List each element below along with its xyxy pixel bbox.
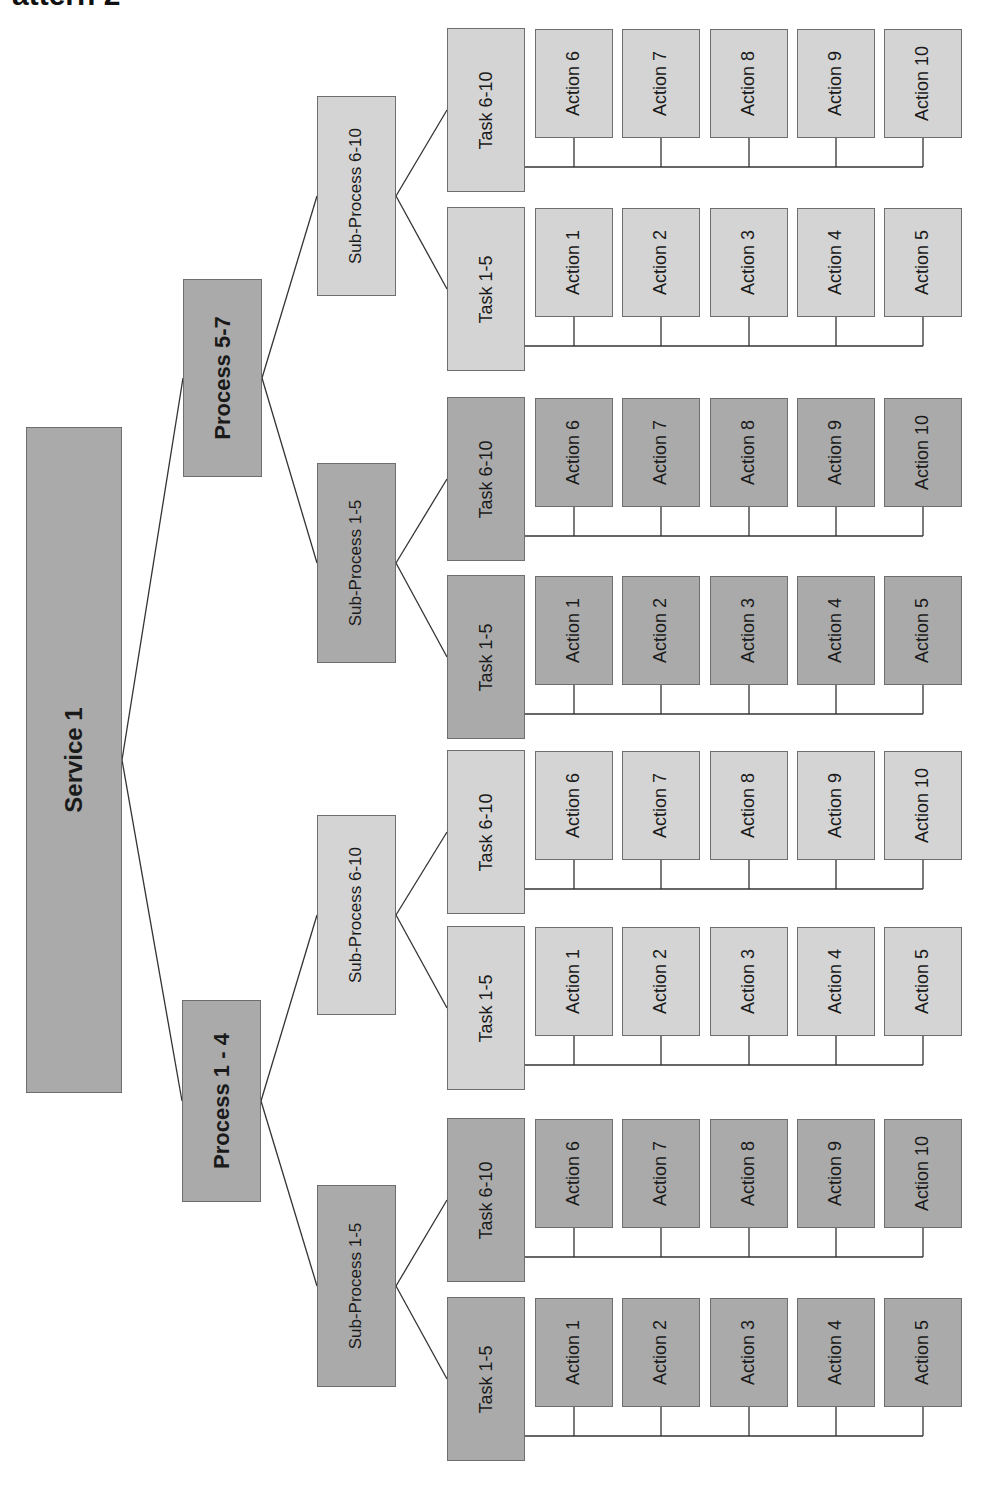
action-box: Action 7 [622,29,700,138]
action-box-label: Action 1 [563,1320,584,1385]
action-box: Action 10 [884,29,962,138]
action-box: Action 1 [535,927,613,1036]
sub-process-box: Sub-Process 1-5 [317,1185,396,1387]
action-box-label: Action 9 [825,1141,846,1206]
action-box-label: Action 3 [738,230,759,295]
action-box-label: Action 5 [912,598,933,663]
action-box-label: Action 7 [650,51,671,116]
task-box-label: Task 6-10 [476,71,497,149]
action-box-label: Action 3 [738,598,759,663]
action-box-label: Action 6 [563,773,584,838]
action-box: Action 10 [884,1119,962,1228]
action-box: Action 4 [797,1298,875,1407]
action-box: Action 8 [710,1119,788,1228]
action-box-label: Action 10 [913,46,934,121]
task-box-label: Task 1-5 [476,1345,497,1413]
task-box-label: Task 6-10 [476,440,497,518]
action-box: Action 9 [797,398,875,507]
action-box-label: Action 7 [650,773,671,838]
task-box-label: Task 1-5 [476,623,497,691]
action-box-label: Action 9 [825,51,846,116]
action-box-label: Action 2 [650,598,671,663]
action-box-label: Action 1 [563,230,584,295]
action-box-label: Action 4 [825,949,846,1014]
process-box: Process 5-7 [183,279,262,477]
action-box: Action 2 [622,1298,700,1407]
task-box-label: Task 6-10 [476,1161,497,1239]
action-box-label: Action 4 [825,230,846,295]
sub-process-box: Sub-Process 6-10 [317,96,396,296]
task-box-label: Task 6-10 [476,793,497,871]
action-box: Action 5 [884,208,962,317]
action-box: Action 6 [535,751,613,860]
action-box: Action 5 [884,1298,962,1407]
action-box: Action 4 [797,208,875,317]
action-box: Action 3 [710,927,788,1036]
action-box: Action 1 [535,1298,613,1407]
action-box-label: Action 6 [563,51,584,116]
action-box-label: Action 6 [563,420,584,485]
action-box: Action 9 [797,751,875,860]
sub-process-box-label: Sub-Process 1-5 [347,500,367,627]
process-box: Process 1 - 4 [182,1000,261,1202]
action-box-label: Action 3 [738,1320,759,1385]
action-box: Action 3 [710,1298,788,1407]
page-title: Pattern 2 [0,0,120,12]
task-box: Task 1-5 [447,207,525,371]
sub-process-box: Sub-Process 1-5 [317,463,396,663]
action-box-label: Action 4 [825,598,846,663]
sub-process-box: Sub-Process 6-10 [317,815,396,1015]
action-box-label: Action 8 [738,773,759,838]
action-box: Action 8 [710,398,788,507]
action-box: Action 7 [622,1119,700,1228]
action-box: Action 6 [535,1119,613,1228]
action-box: Action 9 [797,1119,875,1228]
action-box: Action 2 [622,208,700,317]
task-box: Task 1-5 [447,575,525,739]
action-box: Action 10 [884,398,962,507]
action-box-label: Action 8 [738,420,759,485]
action-box-label: Action 5 [912,1320,933,1385]
action-box-label: Action 2 [650,1320,671,1385]
action-box-label: Action 5 [912,230,933,295]
action-box: Action 4 [797,576,875,685]
action-box-label: Action 2 [650,230,671,295]
action-box-label: Action 5 [912,949,933,1014]
task-box-label: Task 1-5 [476,255,497,323]
action-box: Action 8 [710,751,788,860]
action-box-label: Action 4 [825,1320,846,1385]
action-box: Action 7 [622,751,700,860]
action-box: Action 5 [884,576,962,685]
action-box-label: Action 2 [650,949,671,1014]
action-box: Action 4 [797,927,875,1036]
action-box: Action 1 [535,208,613,317]
action-box-label: Action 7 [650,1141,671,1206]
action-box: Action 6 [535,398,613,507]
process-box-label: Process 5-7 [210,316,236,440]
action-box: Action 1 [535,576,613,685]
service-box-label: Service 1 [60,707,88,812]
action-box: Action 5 [884,927,962,1036]
action-box-label: Action 9 [825,420,846,485]
action-box-label: Action 8 [738,1141,759,1206]
action-box: Action 2 [622,927,700,1036]
sub-process-box-label: Sub-Process 1-5 [347,1223,367,1350]
sub-process-box-label: Sub-Process 6-10 [347,128,367,264]
action-box: Action 3 [710,576,788,685]
action-box: Action 3 [710,208,788,317]
action-box-label: Action 10 [913,415,934,490]
task-box-label: Task 1-5 [476,974,497,1042]
action-box-label: Action 10 [913,1136,934,1211]
process-box-label: Process 1 - 4 [209,1033,235,1169]
service-box: Service 1 [26,427,122,1093]
task-box: Task 1-5 [447,1297,525,1461]
action-box-label: Action 3 [738,949,759,1014]
action-box: Action 2 [622,576,700,685]
action-box: Action 8 [710,29,788,138]
action-box-label: Action 10 [913,768,934,843]
action-box: Action 7 [622,398,700,507]
action-box-label: Action 9 [825,773,846,838]
task-box: Task 1-5 [447,926,525,1090]
action-box: Action 9 [797,29,875,138]
sub-process-box-label: Sub-Process 6-10 [347,847,367,983]
